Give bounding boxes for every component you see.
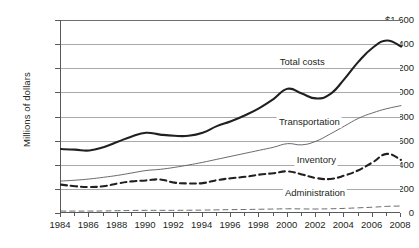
series-label-administration: Administration [283, 188, 347, 198]
x-tick-1995 [216, 213, 217, 216]
x-tick-2006 [372, 213, 373, 217]
x-tick-1992 [173, 213, 174, 217]
x-tick-2008 [400, 213, 401, 217]
series-line-administration [61, 206, 401, 211]
series-layer [61, 20, 401, 213]
x-tick-1988 [117, 213, 118, 217]
x-tick-2003 [329, 213, 330, 216]
x-tick-1985 [74, 213, 75, 216]
series-label-inventory: Inventory [295, 155, 338, 165]
x-tick-1987 [103, 213, 104, 216]
x-tick-1991 [159, 213, 160, 216]
x-tick-1998 [258, 213, 259, 217]
x-tick-1990 [145, 213, 146, 217]
x-tick-1989 [131, 213, 132, 216]
plot-area [60, 20, 400, 213]
x-tick-label-2008: 2008 [380, 220, 419, 230]
x-tick-2005 [358, 213, 359, 216]
series-line-inventory [61, 154, 401, 187]
x-tick-1984 [60, 213, 61, 217]
x-tick-2000 [287, 213, 288, 217]
x-tick-2002 [315, 213, 316, 217]
x-tick-1994 [202, 213, 203, 217]
x-tick-1993 [188, 213, 189, 216]
y-axis-title: Millions of dollars [21, 40, 32, 180]
x-tick-1997 [244, 213, 245, 216]
x-tick-2001 [301, 213, 302, 216]
x-tick-1996 [230, 213, 231, 217]
x-tick-2007 [386, 213, 387, 216]
series-label-total-costs: Total costs [278, 57, 327, 67]
x-tick-2004 [343, 213, 344, 217]
x-tick-1999 [273, 213, 274, 216]
series-line-total-costs [61, 40, 401, 150]
x-tick-1986 [88, 213, 89, 217]
series-label-transportation: Transportation [277, 117, 342, 127]
